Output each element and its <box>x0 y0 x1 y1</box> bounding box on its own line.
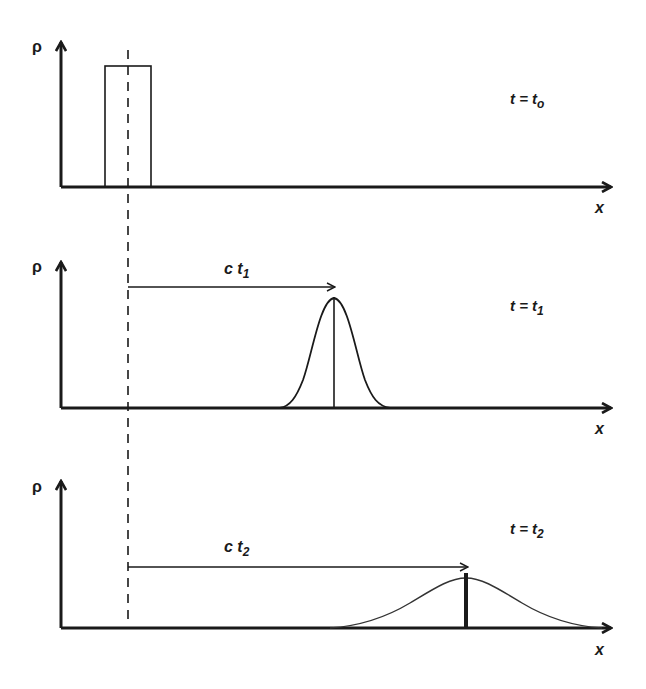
advection-diagram: ρ x t = to ρ x c t1 t = t1 ρ x c t2 t = … <box>0 0 646 689</box>
y-axis-label: ρ <box>32 478 42 495</box>
panel-t0: ρ x t = to <box>32 38 611 216</box>
x-axis-label: x <box>594 641 605 658</box>
x-axis-label: x <box>594 199 605 216</box>
displacement-label: c t1 <box>224 260 250 281</box>
gaussian-pulse <box>280 298 390 408</box>
time-label: t = t2 <box>510 520 544 541</box>
displacement-label: c t2 <box>224 538 250 559</box>
x-axis-label: x <box>594 420 605 437</box>
panel-t2: ρ x c t2 t = t2 <box>32 478 611 658</box>
y-axis-label: ρ <box>32 38 42 55</box>
time-label: t = to <box>510 90 544 111</box>
y-axis-label: ρ <box>32 258 42 275</box>
panel-t1: ρ x c t1 t = t1 <box>32 258 611 437</box>
time-label: t = t1 <box>510 297 544 318</box>
